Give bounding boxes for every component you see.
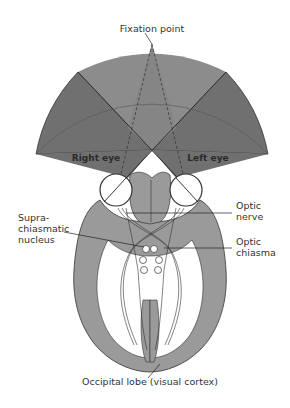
visual-field [36, 33, 268, 178]
suprachiasmatic-nucleus-right [143, 246, 150, 253]
left-eye-label: Left eye [187, 153, 228, 163]
optic-chiasma-label-line2: chiasma [236, 247, 276, 258]
lgn-right-1 [140, 257, 147, 264]
lgn-left-2 [155, 267, 162, 274]
suprachiasmatic-label-line1: Supra- [18, 212, 49, 223]
frontal-lobes [129, 172, 170, 224]
right-eye-label: Right eye [72, 153, 120, 163]
visual-pathway-diagram: Fixation point Right eye Left eye Optic … [0, 0, 290, 408]
fixation-point-label: Fixation point [120, 23, 185, 34]
optic-nerve-label-line1: Optic [236, 200, 261, 211]
optic-nerve-label-line2: nerve [236, 211, 263, 222]
suprachiasmatic-label-line3: nucleus [18, 234, 55, 245]
suprachiasmatic-nucleus-left [151, 246, 158, 253]
optic-chiasma-label-line1: Optic [236, 236, 261, 247]
occipital-lobe-label: Occipital lobe (visual cortex) [82, 376, 218, 387]
lgn-right-2 [141, 267, 148, 274]
fixation-pointer [145, 33, 152, 44]
brain [74, 172, 227, 372]
lgn-left-1 [156, 257, 163, 264]
suprachiasmatic-label-line2: chiasmatic [18, 223, 69, 234]
